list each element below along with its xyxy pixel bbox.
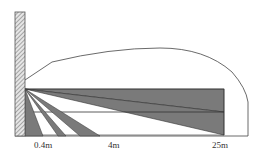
label-near: 0.4m [34,140,52,150]
detection-diagram [0,0,263,157]
wall [15,12,25,136]
label-mid: 4m [108,140,120,150]
label-far: 25m [212,140,228,150]
